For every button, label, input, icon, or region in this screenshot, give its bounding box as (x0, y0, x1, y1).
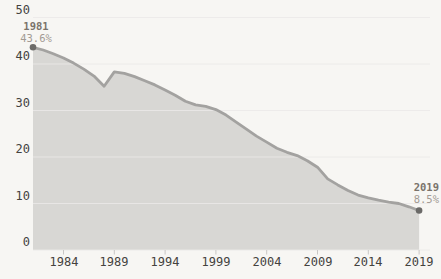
y-axis-label-40: 40 (0, 49, 30, 64)
annotation-1981-year: 1981 (8, 21, 64, 33)
y-axis-label-50: 50 (0, 3, 30, 18)
y-axis-label-20: 20 (0, 142, 30, 157)
area-chart: 50 40 30 20 10 0 1984 1989 1994 1999 200… (0, 0, 441, 279)
x-axis-label-2004: 2004 (240, 255, 294, 270)
x-axis-label-2019: 2019 (392, 255, 441, 270)
x-axis-label-1999: 1999 (189, 255, 243, 270)
plot-canvas (0, 0, 441, 279)
annotation-2019-year: 2019 (383, 182, 439, 194)
y-axis-label-0: 0 (0, 235, 30, 250)
annotation-1981: 1981 43.6% (8, 21, 64, 44)
x-axis-label-2009: 2009 (291, 255, 345, 270)
area-fill (33, 47, 419, 250)
marker-2019 (416, 207, 423, 214)
x-axis-label-1994: 1994 (138, 255, 192, 270)
annotation-2019-value: 8.5% (383, 194, 439, 206)
annotation-1981-value: 43.6% (8, 33, 64, 45)
x-axis-label-1984: 1984 (37, 255, 91, 270)
y-axis-label-30: 30 (0, 96, 30, 111)
x-axis-label-2014: 2014 (341, 255, 395, 270)
marker-1981 (30, 44, 37, 51)
x-axis-label-1989: 1989 (87, 255, 141, 270)
y-axis-label-10: 10 (0, 189, 30, 204)
annotation-2019: 2019 8.5% (383, 182, 439, 205)
